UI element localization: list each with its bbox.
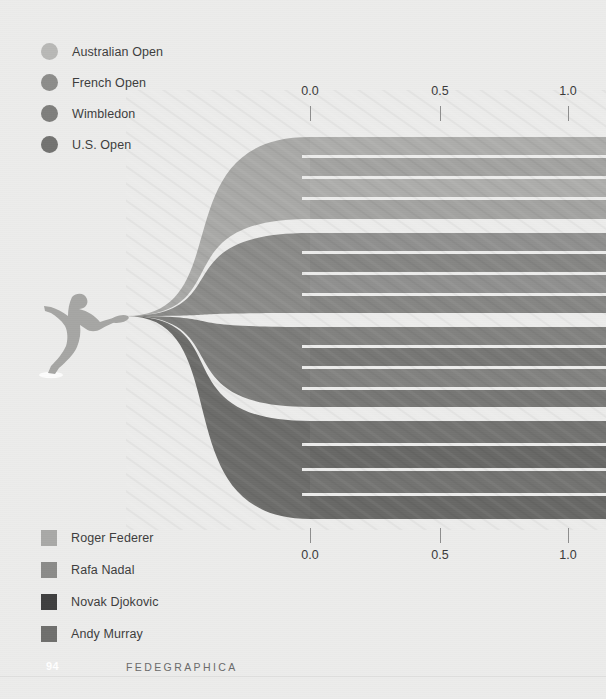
legend-item-australian-open[interactable]: Australian Open [41,36,163,67]
axis-tick-label: 0.5 [431,84,448,98]
square-swatch-icon [41,626,57,642]
circle-swatch-icon [41,136,58,153]
axis-tick-mark [568,106,569,121]
legend-item-label: Andy Murray [71,627,143,641]
axis-tick-label: 0.0 [301,548,318,562]
axis-tick-mark [440,106,441,121]
silhouette-body [44,294,118,374]
legend-item-andy-murray[interactable]: Andy Murray [41,618,159,650]
page-canvas: Australian Open French Open Wimbledon U.… [0,0,606,699]
axis-tick-label: 1.0 [559,548,576,562]
axis-tick-mark [310,106,311,121]
axis-top: 0.0 0.5 1.0 [0,84,606,129]
axis-tick-mark [568,528,569,543]
axis-tick-mark [440,528,441,543]
chart-texture-overlay [126,90,606,530]
racket-icon [110,314,129,325]
legend-item-novak-djokovic[interactable]: Novak Djokovic [41,586,159,618]
page-number: 94 [46,660,59,672]
legend-item-label: Novak Djokovic [71,595,159,609]
book-title: FEDEGRAPHICA [126,661,238,673]
legend-item-label: Australian Open [72,45,163,59]
legend-item-label: U.S. Open [72,138,131,152]
tennis-player-silhouette [32,280,132,380]
circle-swatch-icon [41,43,58,60]
footer: 94 FEDEGRAPHICA [0,660,606,684]
square-swatch-icon [41,594,57,610]
axis-tick-label: 1.0 [559,84,576,98]
axis-tick-label: 0.0 [301,84,318,98]
axis-bottom: 0.0 0.5 1.0 [0,524,606,569]
axis-tick-label: 0.5 [431,548,448,562]
legend-item-us-open[interactable]: U.S. Open [41,129,163,160]
axis-tick-mark [310,528,311,543]
